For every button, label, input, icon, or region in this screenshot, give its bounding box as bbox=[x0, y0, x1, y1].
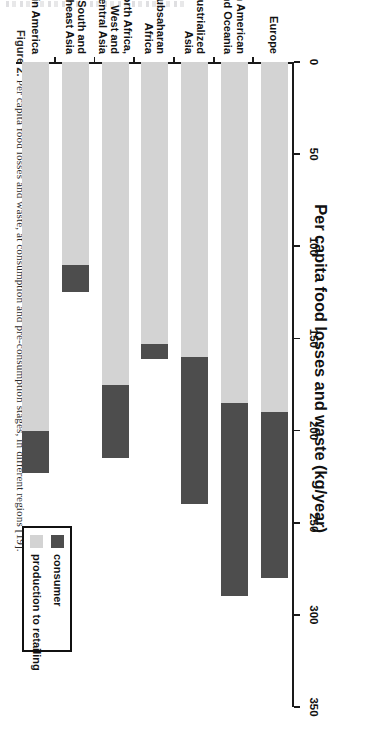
x-axis-tick bbox=[294, 706, 300, 708]
category-label: Latin America bbox=[30, 0, 42, 54]
x-axis-tick bbox=[294, 430, 300, 432]
bar-group bbox=[62, 62, 89, 292]
bar-segment-consumer bbox=[221, 403, 248, 597]
category-axis-tick bbox=[253, 57, 255, 62]
bar-group bbox=[221, 62, 248, 596]
x-axis-tick bbox=[294, 153, 300, 155]
bar-segment-production-to-retailing bbox=[221, 62, 248, 403]
category-label: North American and Oceania bbox=[222, 0, 247, 54]
bar-segment-consumer bbox=[62, 265, 89, 293]
x-axis-tick bbox=[294, 245, 300, 247]
x-axis-tick-label: 200 bbox=[308, 411, 320, 451]
category-axis-tick bbox=[133, 57, 135, 62]
bar-group bbox=[142, 62, 169, 359]
category-axis-tick bbox=[213, 57, 215, 62]
legend-label: consumer bbox=[52, 554, 64, 607]
bar-segment-consumer bbox=[142, 344, 169, 359]
x-axis-tick-label: 250 bbox=[308, 503, 320, 543]
bar-segment-consumer bbox=[22, 431, 49, 473]
bar-segment-production-to-retailing bbox=[102, 62, 129, 385]
category-axis-tick bbox=[54, 57, 56, 62]
x-axis-tick-label: 100 bbox=[308, 226, 320, 266]
category-label: Europe bbox=[268, 0, 280, 54]
category-label: Subsaharan Africa bbox=[143, 0, 168, 54]
x-axis-tick-label: 0 bbox=[308, 42, 320, 82]
category-label: Industrialized Asia bbox=[182, 0, 207, 54]
bar-chart: Per capita food losses and waste (kg/yea… bbox=[0, 0, 368, 737]
bar-segment-production-to-retailing bbox=[181, 62, 208, 357]
x-axis-tick bbox=[294, 522, 300, 524]
chart-rotated-container: Per capita food losses and waste (kg/yea… bbox=[0, 0, 368, 737]
bar-segment-consumer bbox=[181, 357, 208, 504]
bar-segment-consumer bbox=[261, 412, 288, 578]
x-axis-tick-label: 350 bbox=[308, 687, 320, 727]
x-axis-tick-label: 150 bbox=[308, 318, 320, 358]
bar-segment-production-to-retailing bbox=[62, 62, 89, 265]
legend-swatch-consumer bbox=[51, 535, 64, 548]
value-axis-line bbox=[292, 62, 294, 707]
category-label: South and Southeast Asia bbox=[63, 0, 88, 54]
category-axis-tick bbox=[94, 57, 96, 62]
bar-group bbox=[102, 62, 129, 458]
x-axis-tick-label: 50 bbox=[308, 134, 320, 174]
bar-segment-production-to-retailing bbox=[142, 62, 169, 344]
x-axis-tick bbox=[294, 61, 300, 63]
x-axis-tick bbox=[294, 338, 300, 340]
x-axis-tick-label: 300 bbox=[308, 595, 320, 635]
x-axis-tick bbox=[294, 614, 300, 616]
bar-group bbox=[22, 62, 49, 473]
bar-segment-production-to-retailing bbox=[22, 62, 49, 431]
category-axis-tick bbox=[173, 57, 175, 62]
category-label: North Africa, West and Central Asia bbox=[97, 0, 134, 54]
bar-group bbox=[261, 62, 288, 578]
bar-segment-production-to-retailing bbox=[261, 62, 288, 412]
bar-segment-consumer bbox=[102, 385, 129, 459]
legend-label: production to retailing bbox=[31, 554, 43, 671]
legend-swatch-production-to-retailing bbox=[30, 535, 43, 548]
bar-group bbox=[181, 62, 208, 504]
